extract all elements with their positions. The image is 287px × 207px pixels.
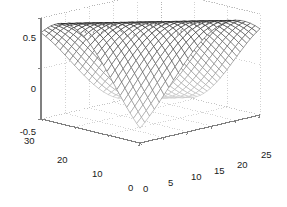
- x-tick-label-15: 15: [214, 166, 225, 176]
- x-tick-label-0: 0: [143, 184, 148, 194]
- y-tick-label-20: 20: [57, 155, 68, 165]
- figure-canvas: 0.5 0 -0.5 30 20 10 0 0 5 10 15 20 25: [0, 0, 287, 207]
- y-tick-label-0: 0: [128, 183, 133, 193]
- y-tick-label-30: 30: [24, 136, 35, 146]
- x-tick-label-25: 25: [261, 150, 272, 160]
- y-tick-label-10: 10: [92, 169, 103, 179]
- x-tick-label-10: 10: [191, 172, 202, 182]
- z-tick-label-1: 0: [14, 84, 36, 94]
- x-tick-label-20: 20: [237, 160, 248, 170]
- surface-mesh-plot: [0, 0, 287, 207]
- z-tick-label-0: 0.5: [14, 33, 36, 43]
- mesh-surface: [41, 20, 260, 128]
- x-tick-label-5: 5: [168, 178, 173, 188]
